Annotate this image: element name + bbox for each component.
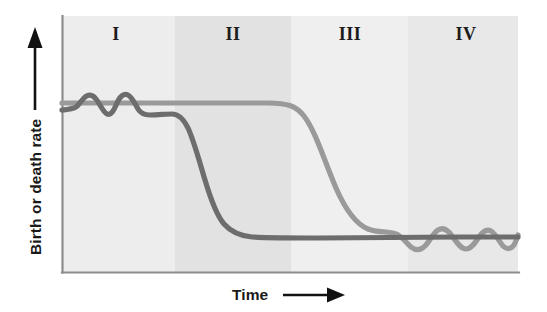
x-axis-arrow [283,288,345,303]
stage-label-iv: IV [455,24,476,44]
y-axis-label: Birth or death rate [27,118,44,255]
stage-label-i: I [112,24,120,44]
stage-label-ii: II [225,24,240,44]
y-arrow-head [28,27,43,48]
demographic-transition-figure: I II III IV Birth or death rate Time [0,0,547,312]
stage-band-i [62,16,175,272]
x-arrow-head [327,288,345,303]
stage-label-iii: III [339,24,362,44]
chart-canvas: I II III IV Birth or death rate Time [0,0,547,312]
stage-band-iv [408,16,518,272]
x-axis-label: Time [232,286,269,303]
y-axis-arrow [28,27,43,110]
